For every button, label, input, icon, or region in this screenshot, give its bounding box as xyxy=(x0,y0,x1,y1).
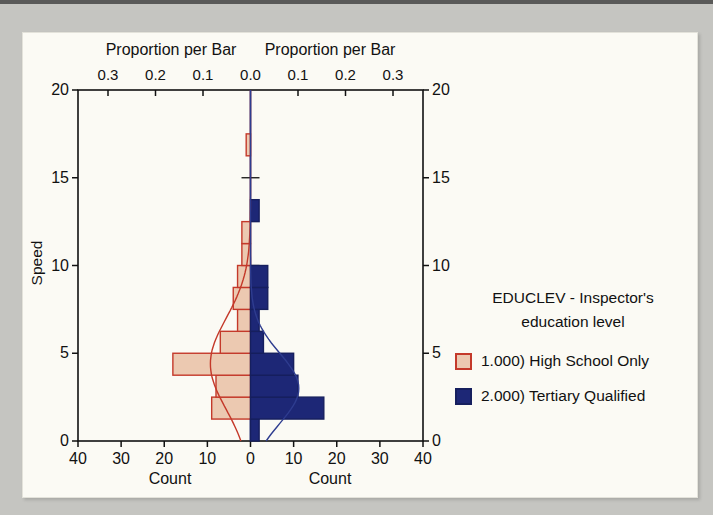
proportion-tick-label: 0.2 xyxy=(145,66,166,83)
bottom-axis-title-right: Count xyxy=(309,470,352,487)
bar-right-speed-8.75 xyxy=(251,266,268,288)
top-axis-title-right: Proportion per Bar xyxy=(265,41,396,58)
count-tick-label: 30 xyxy=(371,450,389,467)
bar-right-speed-2.5 xyxy=(251,375,298,397)
legend-title-line2: education level xyxy=(442,310,704,334)
y-tick-label-left: 0 xyxy=(60,432,69,449)
bar-left-speed-1.25 xyxy=(212,397,251,419)
y-tick-label-right: 15 xyxy=(432,169,450,186)
legend-item-tertiary: 2.000) Tertiary Qualified xyxy=(455,387,704,405)
y-tick-label-left: 10 xyxy=(51,257,69,274)
y-tick-label-left: 5 xyxy=(60,344,69,361)
y-tick-label-left: 15 xyxy=(51,169,69,186)
legend-label-tertiary: 2.000) Tertiary Qualified xyxy=(481,387,645,405)
pyramid-histogram-chart: Proportion per Bar Proportion per Bar Co… xyxy=(22,32,698,498)
y-tick-label-right: 10 xyxy=(432,257,450,274)
y-tick-label-right: 5 xyxy=(432,344,441,361)
proportion-tick-label: 0.1 xyxy=(193,66,214,83)
bar-right-speed-0 xyxy=(251,419,260,441)
proportion-tick-label: 0.3 xyxy=(383,66,404,83)
legend-swatch-high-school-icon xyxy=(455,353,472,370)
bar-left-speed-5 xyxy=(220,331,250,353)
bar-right-speed-1.25 xyxy=(251,397,324,419)
count-tick-label: 40 xyxy=(414,450,432,467)
bar-left-speed-6.25 xyxy=(238,309,251,331)
count-tick-label: 10 xyxy=(285,450,303,467)
bottom-axis-title-left: Count xyxy=(149,470,192,487)
count-tick-label: 40 xyxy=(69,450,87,467)
proportion-tick-label: 0.0 xyxy=(240,66,261,83)
proportion-tick-label: 0.2 xyxy=(335,66,356,83)
proportion-tick-label: 0.3 xyxy=(98,66,119,83)
y-axis-title: Speed xyxy=(28,241,45,286)
scan-artifact-strip xyxy=(0,0,713,4)
bar-right-speed-3.75 xyxy=(251,353,294,375)
count-tick-label: 20 xyxy=(328,450,346,467)
bar-left-speed-2.5 xyxy=(216,375,251,397)
legend-title-line1: EDUCLEV - Inspector's xyxy=(442,286,704,310)
proportion-tick-label: 0.1 xyxy=(288,66,309,83)
count-tick-label: 0 xyxy=(246,450,255,467)
bar-right-speed-12.5 xyxy=(251,200,260,222)
count-tick-label: 20 xyxy=(155,450,173,467)
top-axis-title-left: Proportion per Bar xyxy=(106,41,237,58)
legend-swatch-tertiary-icon xyxy=(455,388,472,405)
bar-right-speed-5 xyxy=(251,331,264,353)
figure-panel: Proportion per Bar Proportion per Bar Co… xyxy=(22,32,698,498)
legend: EDUCLEV - Inspector's education level 1.… xyxy=(442,286,704,422)
y-tick-label-right: 0 xyxy=(432,432,441,449)
y-tick-label-right: 20 xyxy=(432,81,450,98)
legend-title: EDUCLEV - Inspector's education level xyxy=(442,286,704,334)
legend-item-high-school: 1.000) High School Only xyxy=(455,352,704,370)
count-tick-label: 30 xyxy=(112,450,130,467)
y-tick-label-left: 20 xyxy=(51,81,69,98)
count-tick-label: 10 xyxy=(198,450,216,467)
legend-label-high-school: 1.000) High School Only xyxy=(481,352,649,370)
histogram-bars xyxy=(173,134,324,441)
